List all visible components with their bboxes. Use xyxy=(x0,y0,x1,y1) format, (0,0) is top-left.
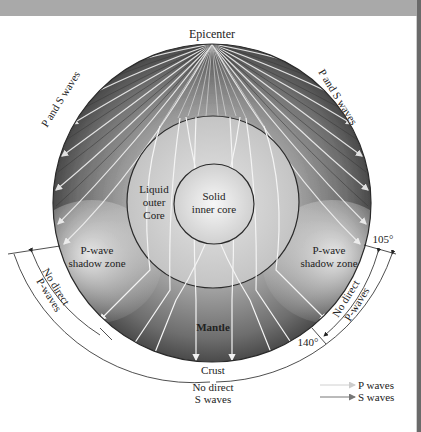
svg-text:shadow zone: shadow zone xyxy=(300,257,357,269)
svg-text:S waves: S waves xyxy=(195,393,231,405)
mantle-label: Mantle xyxy=(196,321,230,333)
left-no-direct-p-label: No direct P-waves xyxy=(34,266,72,314)
angle-140-label: 140° xyxy=(298,336,319,348)
epicenter-label: Epicenter xyxy=(189,27,235,41)
earth-seismic-diagram: Epicenter P and S waves P and S waves Li… xyxy=(0,0,421,432)
svg-text:outer: outer xyxy=(143,196,166,208)
svg-text:inner core: inner core xyxy=(192,203,236,215)
svg-text:P-wave: P-wave xyxy=(313,244,346,256)
crust-label: Crust xyxy=(201,364,225,376)
angle-105-label: 105° xyxy=(373,233,394,245)
legend: P waves S waves xyxy=(320,379,394,403)
svg-text:Core: Core xyxy=(143,209,165,221)
outer-core-label: Liquid outer Core xyxy=(139,183,169,221)
svg-text:shadow zone: shadow zone xyxy=(68,257,125,269)
svg-text:P-wave: P-wave xyxy=(81,244,114,256)
svg-text:Solid: Solid xyxy=(202,190,226,202)
legend-p-waves: P waves xyxy=(358,379,394,391)
no-direct-s-waves-label: No direct S waves xyxy=(192,381,233,405)
svg-text:No direct: No direct xyxy=(192,381,233,393)
legend-s-waves: S waves xyxy=(358,391,394,403)
svg-text:Liquid: Liquid xyxy=(139,183,169,195)
